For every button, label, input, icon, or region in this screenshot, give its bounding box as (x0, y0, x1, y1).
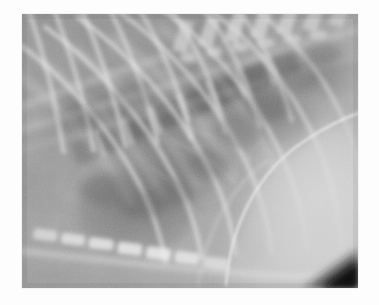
page-root (0, 0, 379, 305)
film-grain (22, 14, 358, 288)
radiograph-image (22, 14, 358, 288)
radiograph-canvas (22, 14, 358, 288)
